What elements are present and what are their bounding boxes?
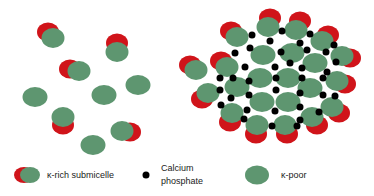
rich-submicelle-green-part — [185, 60, 208, 80]
legend-rich-label: κ-rich submicelle — [47, 170, 114, 180]
calcium-phosphate-dot — [331, 42, 338, 49]
calcium-phosphate-dot — [333, 59, 340, 66]
calcium-phosphate-dot — [320, 75, 327, 82]
legend-poor-label: κ-poor — [281, 170, 307, 180]
poor-submicelle — [251, 45, 276, 65]
calcium-phosphate-dot — [218, 102, 225, 109]
dispersed-submicelles-panel — [23, 23, 151, 156]
poor-submicelle — [23, 87, 48, 107]
poor-submicelle — [126, 75, 151, 95]
rich-submicelle-green-part — [68, 61, 91, 81]
calcium-phosphate-dot — [297, 104, 304, 111]
calcium-phosphate-dot — [232, 50, 239, 57]
calcium-phosphate-dot — [278, 49, 285, 56]
calcium-phosphate-dot — [244, 107, 251, 114]
poor-submicelle — [248, 68, 273, 88]
rich-submicelle-green-part — [42, 28, 65, 48]
legend-poor-submicelle — [245, 166, 269, 185]
rich-submicelle-green-part — [106, 42, 129, 62]
poor-submicelle — [303, 53, 328, 73]
calcium-phosphate-dot — [273, 75, 280, 82]
calcium-phosphate-dot — [299, 65, 306, 72]
rich-submicelle-green-part — [226, 27, 249, 47]
calcium-phosphate-dot — [272, 108, 279, 115]
rich-submicelle-green-part — [311, 31, 334, 51]
calcium-phosphate-dot — [323, 49, 330, 56]
calcium-phosphate-dot — [246, 78, 253, 85]
calcium-phosphate-dot — [269, 123, 276, 130]
calcium-phosphate-dot — [249, 32, 256, 39]
calcium-phosphate-dot — [320, 92, 327, 99]
calcium-phosphate-dot — [304, 47, 311, 54]
calcium-phosphate-dot — [272, 64, 279, 71]
rich-submicelle-green-part — [321, 97, 344, 117]
legend-rich-green-part — [20, 167, 40, 183]
calcium-phosphate-dot — [297, 90, 304, 97]
rich-submicelle-green-part — [285, 20, 308, 40]
rich-submicelle-green-part — [246, 115, 269, 135]
calcium-phosphate-dot — [242, 64, 249, 71]
poor-submicelle — [276, 92, 301, 112]
calcium-phosphate-dot — [324, 69, 331, 76]
calcium-phosphate-dot — [332, 93, 339, 100]
rich-submicelle-green-part — [257, 17, 280, 37]
calcium-phosphate-dot — [217, 87, 224, 94]
legend-calcium-label-line2: phosphate — [161, 176, 203, 186]
calcium-phosphate-dot — [316, 109, 323, 116]
legend-calcium-phosphate-dot — [143, 172, 150, 179]
calcium-phosphate-dot — [247, 45, 254, 52]
poor-submicelle — [81, 135, 106, 155]
calcium-phosphate-dot — [241, 116, 248, 123]
calcium-phosphate-dot — [246, 92, 253, 99]
calcium-phosphate-dot — [297, 117, 304, 124]
poor-submicelle — [92, 85, 117, 105]
poor-submicelle — [250, 92, 275, 112]
calcium-phosphate-dot — [307, 31, 314, 38]
calcium-phosphate-dot — [267, 38, 274, 45]
rich-submicelle-green-part — [52, 107, 75, 127]
calcium-phosphate-dot — [228, 95, 235, 102]
aggregated-micelle-panel — [179, 9, 361, 144]
calcium-phosphate-dot — [297, 40, 304, 47]
calcium-phosphate-dot — [299, 75, 306, 82]
rich-submicelle-green-part — [216, 57, 239, 77]
calcium-phosphate-dot — [287, 60, 294, 67]
calcium-phosphate-dot — [279, 28, 286, 35]
calcium-phosphate-dot — [294, 123, 301, 130]
rich-submicelle-green-part — [111, 121, 134, 141]
rich-submicelle-green-part — [197, 83, 220, 103]
rich-submicelle-green-part — [274, 115, 297, 135]
calcium-phosphate-dot — [230, 75, 237, 82]
calcium-phosphate-dot — [217, 75, 224, 82]
legend-calcium-label-line1: Calcium — [161, 163, 194, 173]
calcium-phosphate-dot — [273, 87, 280, 94]
